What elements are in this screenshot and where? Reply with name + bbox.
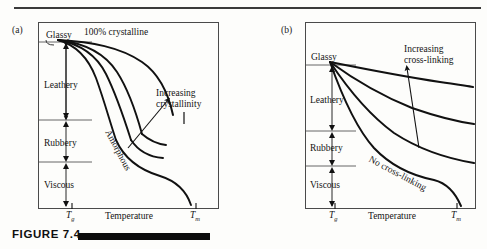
region-label-rubbery-a: Rubbery xyxy=(44,138,77,148)
panel-label-b: (b) xyxy=(281,25,292,35)
annotation-increasing-crosslinking-line1: Increasing xyxy=(404,44,444,55)
x-tick-label-tm-a: Tm xyxy=(190,210,200,222)
x-tick-label-tg-a: Tg xyxy=(66,210,75,222)
top-horizontal-rule xyxy=(14,7,481,9)
x-tick-label-tm-b: Tm xyxy=(451,210,461,222)
figure-caption-label: FIGURE 7.4 xyxy=(12,228,81,240)
figure-caption-bar xyxy=(78,233,210,240)
panel-label-a: (a) xyxy=(12,25,23,35)
x-tick-label-tg-b: Tg xyxy=(329,210,338,222)
region-label-viscous-b: Viscous xyxy=(310,180,340,190)
x-axis-label-a: Temperature xyxy=(105,211,153,221)
annotation-increasing-crosslinking-line2: cross-linking xyxy=(404,55,454,66)
annotation-increasing-crystallinity-line1: Increasing xyxy=(156,88,196,99)
region-label-glassy-a: Glassy xyxy=(46,30,72,40)
region-label-leathery-b: Leathery xyxy=(310,95,344,105)
annotation-100-crystalline: 100% crystalline xyxy=(84,27,148,38)
region-label-viscous-a: Viscous xyxy=(44,180,74,190)
x-axis-label-b: Temperature xyxy=(368,211,416,221)
region-label-glassy-b: Glassy xyxy=(311,52,337,62)
figure-page: (a) Glassy Leathery Rubbery Viscous 100%… xyxy=(0,0,487,249)
region-label-rubbery-b: Rubbery xyxy=(310,143,343,153)
region-label-leathery-a: Leathery xyxy=(44,80,78,90)
annotation-increasing-crystallinity-line2: crystallinity xyxy=(156,99,201,110)
